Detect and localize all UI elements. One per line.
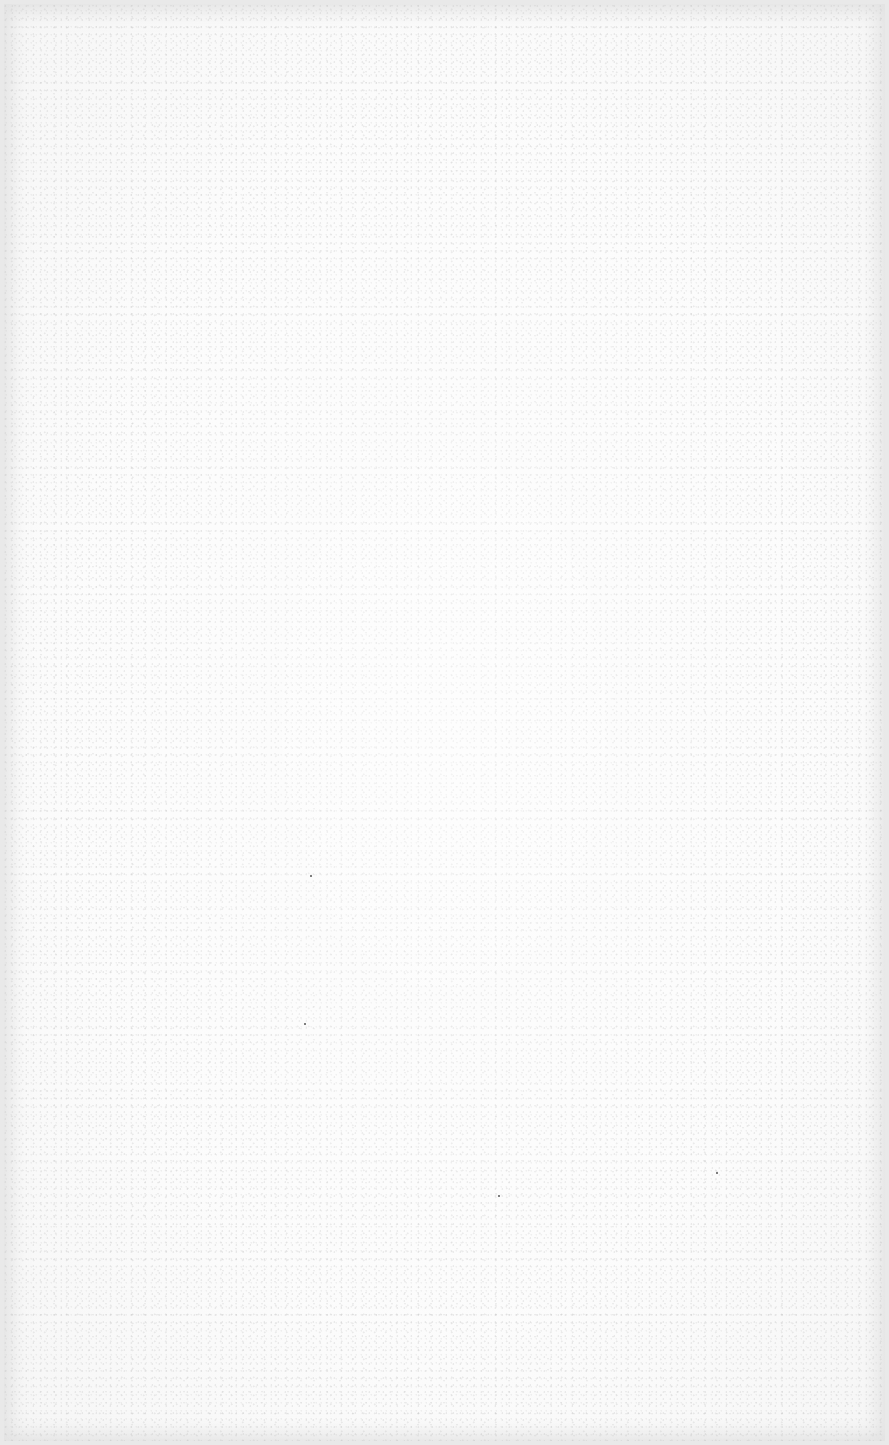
paper-speck (498, 1195, 500, 1197)
paper-speck (716, 1172, 718, 1174)
blank-paper-page (4, 4, 885, 1441)
paper-speck (310, 875, 312, 877)
paper-vignette (4, 4, 885, 1441)
paper-speck (304, 1023, 306, 1025)
